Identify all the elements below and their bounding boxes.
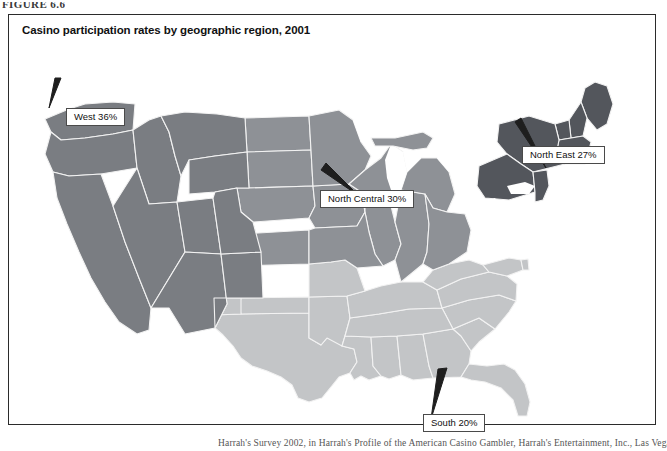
callout-west[interactable]: West 36% xyxy=(66,108,125,126)
figure-source-note: Harrah's Survey 2002, in Harrah's Profil… xyxy=(218,438,667,448)
map-container: West 36% North Central 30% North East 27… xyxy=(9,46,655,424)
callout-north-central-label: North Central 30% xyxy=(328,193,406,204)
callout-west-label: West 36% xyxy=(74,111,117,122)
callout-south[interactable]: South 20% xyxy=(423,414,485,432)
callout-north-east-label: North East 27% xyxy=(530,149,597,160)
region-north-east xyxy=(477,82,613,202)
leader-west xyxy=(49,78,61,108)
callout-south-label: South 20% xyxy=(431,417,477,428)
us-region-map xyxy=(9,46,655,424)
figure-number-label: FIGURE 6.6 xyxy=(2,0,65,10)
figure-title: Casino participation rates by geographic… xyxy=(22,24,310,36)
callout-north-east[interactable]: North East 27% xyxy=(522,146,605,164)
callout-north-central[interactable]: North Central 30% xyxy=(320,190,414,208)
figure-page: FIGURE 6.6 Casino participation rates by… xyxy=(0,0,667,451)
